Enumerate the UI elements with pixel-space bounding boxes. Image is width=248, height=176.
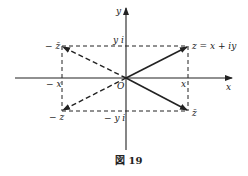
- complex-plane-diagram: y x O y i − y i x − x z = x + iy z̄ − z̄…: [0, 0, 248, 176]
- point-z-label: z = x + iy: [191, 41, 237, 51]
- x-axis-label: x: [226, 82, 231, 92]
- origin-label: O: [117, 81, 125, 91]
- neg-yi-tick-label: − y i: [104, 113, 125, 123]
- vector-z: [126, 47, 187, 78]
- neg-x-tick-label: − x: [46, 79, 61, 89]
- y-axis-label: y: [115, 6, 122, 16]
- yi-tick-label: y i: [112, 35, 124, 45]
- vector-z-conjugate: [126, 78, 187, 110]
- point-neg-z-label: − z: [49, 112, 64, 122]
- vector-neg-z-conjugate: [63, 47, 126, 78]
- x-tick-label: x: [181, 79, 186, 89]
- point-neg-z-conjugate-label: − z̄: [45, 41, 60, 51]
- point-z-conjugate-label: z̄: [191, 108, 197, 118]
- figure-caption: 図 19: [115, 155, 142, 166]
